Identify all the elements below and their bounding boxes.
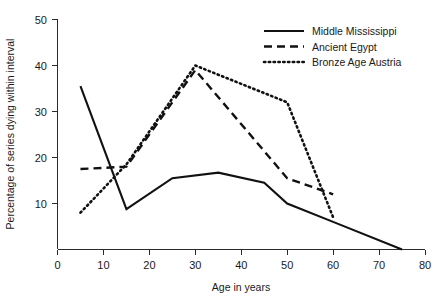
legend-label-ancient-egypt: Ancient Egypt [312,41,377,53]
legend: Middle Mississippi Ancient Egypt Bronze … [264,25,401,68]
y-axis-tick-labels: 50 40 30 20 10 [35,14,47,210]
y-axis-title: Percentage of series dying within interv… [4,39,16,230]
y-axis-ticks [52,20,58,204]
x-tick-label-0: 0 [54,259,60,271]
legend-label-middle-mississippi: Middle Mississippi [312,25,397,37]
y-tick-label-30: 30 [35,106,47,118]
legend-label-bronze-age-austria: Bronze Age Austria [312,56,401,68]
chart-figure: 50 40 30 20 10 0 10 20 30 40 50 60 [0,0,444,303]
x-tick-label-10: 10 [97,259,109,271]
y-tick-label-50: 50 [35,14,47,26]
x-tick-label-50: 50 [281,259,293,271]
x-tick-label-20: 20 [143,259,155,271]
y-tick-label-20: 20 [35,152,47,164]
x-axis-tick-labels: 0 10 20 30 40 50 60 70 80 [54,259,431,271]
series-group [80,66,402,250]
series-line-ancient-egypt [80,70,333,194]
y-tick-label-10: 10 [35,198,47,210]
x-axis-ticks [58,250,426,256]
series-line-bronze-age-austria [80,66,333,218]
x-tick-label-30: 30 [189,259,201,271]
x-tick-label-40: 40 [235,259,247,271]
x-tick-label-70: 70 [373,259,385,271]
x-tick-label-80: 80 [419,259,431,271]
series-line-middle-mississippi [80,86,402,249]
line-chart: 50 40 30 20 10 0 10 20 30 40 50 60 [0,0,444,303]
x-tick-label-60: 60 [327,259,339,271]
y-tick-label-40: 40 [35,60,47,72]
x-axis-title: Age in years [212,281,270,293]
